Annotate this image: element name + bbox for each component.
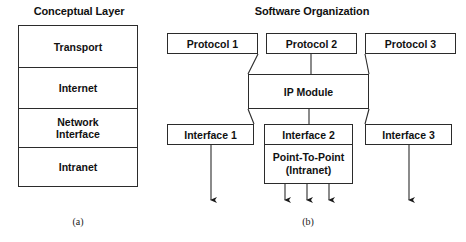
- protocol-label: Protocol 3: [385, 38, 436, 50]
- interface-box-3: Interface 3: [365, 124, 452, 145]
- ip-module-box: IP Module: [248, 74, 369, 109]
- layer-label-line2: Interface: [56, 128, 100, 140]
- protocol-box-1: Protocol 1: [167, 33, 258, 54]
- layer-label: Transport: [54, 41, 102, 53]
- layer-box-internet: Internet: [18, 68, 138, 109]
- layer-box-network-interface: Network Interface: [18, 109, 138, 148]
- protocol-label: Protocol 2: [286, 38, 337, 50]
- interface-label: Interface 3: [382, 129, 435, 141]
- ip-module-label: IP Module: [284, 86, 333, 98]
- interface-label: Interface 2: [282, 129, 335, 141]
- conceptual-layer-stack: Transport Internet Network Interface Int…: [18, 25, 138, 187]
- interface-label: Interface 1: [184, 129, 237, 141]
- interface-2-detail: Point-To-Point (Intranet): [264, 145, 353, 184]
- network-architecture-figure: Conceptual Layer Software Organization T…: [0, 0, 466, 242]
- layer-label: Internet: [59, 82, 98, 94]
- protocol-label: Protocol 1: [187, 38, 238, 50]
- layer-label-line1: Network: [57, 116, 98, 128]
- layer-label: Intranet: [59, 161, 98, 173]
- interface-box-2: Interface 2 Point-To-Point (Intranet): [264, 124, 353, 184]
- interface-box-1: Interface 1: [167, 124, 254, 145]
- interface-2-header: Interface 2: [264, 124, 353, 145]
- protocol-box-2: Protocol 2: [266, 33, 357, 54]
- layer-box-intranet: Intranet: [18, 148, 138, 187]
- protocol-box-3: Protocol 3: [365, 33, 456, 54]
- interface-2-sub-line2: (Intranet): [286, 164, 332, 177]
- layer-box-transport: Transport: [18, 25, 138, 68]
- interface-2-sub-line1: Point-To-Point: [273, 151, 345, 164]
